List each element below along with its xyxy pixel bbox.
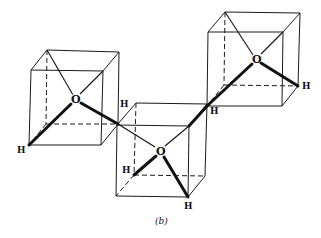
hydrogen-label-right: H xyxy=(302,81,311,91)
edge xyxy=(31,50,47,70)
edge xyxy=(225,12,300,13)
hydrogen-label-middle-link: H xyxy=(210,106,219,116)
oh-bond xyxy=(261,63,298,86)
edge xyxy=(101,124,118,145)
edge xyxy=(136,103,207,104)
hidden-edge xyxy=(134,175,205,176)
oxygen-label-middle: O xyxy=(156,145,166,158)
edge xyxy=(205,104,207,176)
lone-pair-direction xyxy=(225,12,253,55)
hydrogen-label-middle-inner: H xyxy=(122,165,131,175)
oh-bond xyxy=(134,156,156,175)
lone-pair-direction xyxy=(165,126,189,146)
hydrogen-label-left-bottom: H xyxy=(17,145,26,155)
water-hydrogen-bond-diagram: O O O H H H H H H (b) xyxy=(0,0,321,238)
edge xyxy=(283,13,300,32)
hydrogen-label-middle-bottom: H xyxy=(184,201,193,211)
hidden-edge xyxy=(116,175,134,196)
edge xyxy=(118,52,119,124)
hydrogen-bond xyxy=(189,106,207,126)
edge xyxy=(103,52,119,71)
lone-pair-direction xyxy=(80,71,103,94)
atom-labels: O O O H H H H H H xyxy=(17,53,311,211)
hidden-edge xyxy=(46,50,47,124)
figure-caption: (b) xyxy=(155,216,168,226)
oh-bond xyxy=(81,103,118,124)
oxygen-label-right: O xyxy=(252,53,262,66)
lone-pair-direction xyxy=(47,50,73,95)
edge xyxy=(188,176,205,197)
edge xyxy=(208,12,225,32)
right-cube xyxy=(189,12,300,126)
oxygen-label-left: O xyxy=(71,93,81,106)
oh-bond xyxy=(164,157,188,197)
hydrogen-bond xyxy=(118,124,155,147)
hydrogen-label-left-link: H xyxy=(120,99,129,109)
edge xyxy=(282,86,298,106)
oh-bond xyxy=(207,64,252,106)
hidden-edge xyxy=(224,85,298,86)
hidden-edge xyxy=(224,12,225,85)
lone-pair-direction xyxy=(261,32,283,54)
edge xyxy=(298,13,300,86)
hidden-edge xyxy=(134,103,136,175)
edge xyxy=(47,50,119,52)
